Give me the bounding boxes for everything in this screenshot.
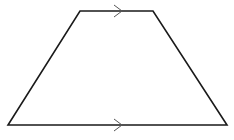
trapezium-diagram xyxy=(0,0,234,140)
trapezium-shape xyxy=(8,11,227,125)
